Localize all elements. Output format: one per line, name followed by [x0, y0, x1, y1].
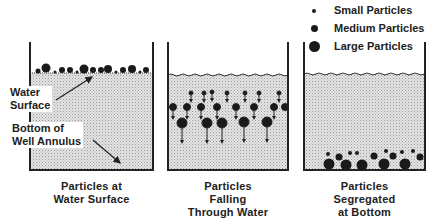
- legend-item-large: Large Particles: [308, 40, 413, 53]
- caption-line: Water Surface: [30, 193, 153, 206]
- legend-label: Small Particles: [334, 4, 412, 17]
- caption-line: Segregated: [304, 193, 425, 206]
- water-surface-callout: Water Surface: [8, 86, 52, 112]
- caption-line: Particles at: [30, 180, 153, 193]
- caption-line: Particles: [304, 180, 425, 193]
- legend-item-medium: Medium Particles: [308, 22, 424, 35]
- caption-line: Falling: [164, 193, 292, 206]
- panel-3-caption: Particles Segregated at Bottom: [304, 180, 425, 219]
- small-particle-icon: [312, 9, 316, 13]
- medium-particle-icon: [311, 25, 318, 32]
- callout-line: Bottom of: [12, 122, 81, 135]
- caption-line: at Bottom: [304, 206, 425, 219]
- callout-line: Surface: [10, 99, 50, 112]
- bottom-callout: Bottom of Well Annulus: [10, 122, 83, 148]
- panel-3-container: [304, 42, 425, 171]
- caption-line: Particles: [164, 180, 292, 193]
- caption-line: Through Water: [164, 206, 292, 219]
- legend-item-small: Small Particles: [308, 4, 412, 17]
- callout-line: Well Annulus: [12, 135, 81, 148]
- large-particle-icon: [309, 41, 320, 52]
- callout-line: Water: [10, 86, 50, 99]
- panel-2-caption: Particles Falling Through Water: [164, 180, 292, 219]
- panel-2-container: [168, 42, 289, 170]
- panel-1-caption: Particles at Water Surface: [30, 180, 153, 206]
- legend-label: Medium Particles: [334, 22, 424, 35]
- surface-particles: [36, 64, 150, 74]
- legend-label: Large Particles: [334, 40, 413, 53]
